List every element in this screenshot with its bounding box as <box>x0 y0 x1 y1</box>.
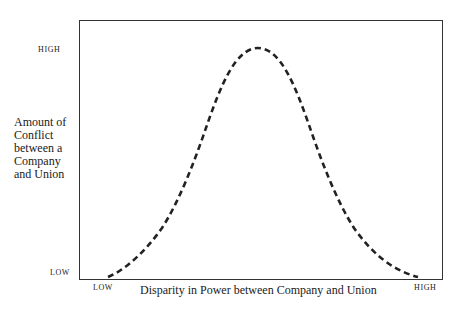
y-axis-title-line: and Union <box>14 168 84 181</box>
x-axis-title: Disparity in Power between Company and U… <box>140 283 377 298</box>
y-tick-high: HIGH <box>38 45 60 54</box>
x-tick-low: LOW <box>93 283 113 292</box>
x-tick-high: HIGH <box>414 283 436 292</box>
y-tick-low: LOW <box>50 268 70 277</box>
y-axis-title: Amount of Conflict between a Company and… <box>14 116 84 181</box>
